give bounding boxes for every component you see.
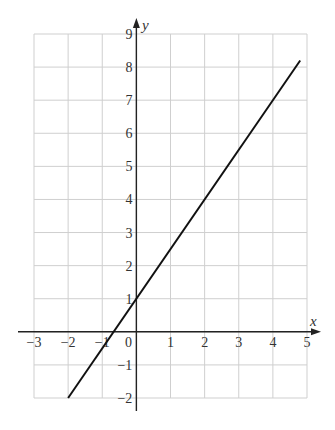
x-axis-label: x	[309, 313, 317, 329]
x-tick-label: 1	[167, 335, 174, 350]
data-series	[68, 60, 300, 398]
y-axis-label: y	[140, 17, 149, 33]
y-tick-label: 3	[125, 226, 132, 241]
x-tick-label: 0	[125, 335, 132, 350]
y-tick-label: 5	[125, 159, 132, 174]
x-tick-label: 2	[201, 335, 208, 350]
y-tick-label: 6	[125, 126, 132, 141]
x-tick-label: 4	[269, 335, 276, 350]
tick-labels: −3−2−1012345−2−1123456789	[27, 27, 311, 406]
y-tick-label: 2	[125, 259, 132, 274]
y-tick-label: 7	[125, 93, 132, 108]
x-tick-label: −3	[27, 335, 42, 350]
series-line	[68, 60, 300, 398]
x-tick-label: 5	[304, 335, 311, 350]
x-tick-label: 3	[235, 335, 242, 350]
y-tick-label: 9	[125, 27, 132, 42]
y-tick-label: 4	[125, 192, 132, 207]
x-tick-label: −2	[61, 335, 76, 350]
y-tick-label: 8	[125, 60, 132, 75]
axes	[18, 18, 321, 411]
x-axis-arrow-icon	[311, 328, 321, 335]
y-tick-label: −1	[117, 358, 132, 373]
y-tick-label: −2	[117, 391, 132, 406]
line-chart: −3−2−1012345−2−1123456789 x y	[0, 0, 335, 430]
y-axis-arrow-icon	[133, 18, 140, 28]
